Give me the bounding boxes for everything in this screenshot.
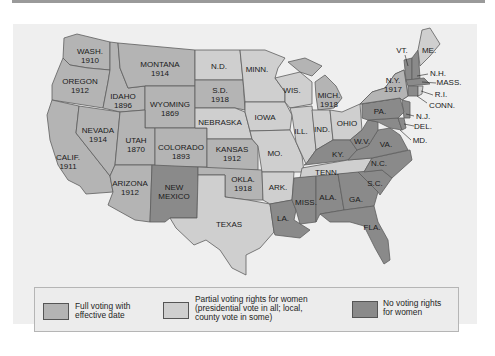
label-miss: MISS. xyxy=(295,198,317,207)
label-colorado-year: 1893 xyxy=(172,152,190,161)
label-sc: S.C. xyxy=(367,179,383,188)
label-mich: MICH. xyxy=(318,91,341,100)
label-wyoming: WYOMING xyxy=(150,100,190,109)
state-mass[interactable] xyxy=(406,78,430,86)
label-ala: ALA. xyxy=(319,193,336,202)
label-ga: GA. xyxy=(349,195,363,204)
label-arizona-year: 1912 xyxy=(121,188,139,197)
legend-label-partial: Partial voting rights for women (preside… xyxy=(195,295,308,322)
state-minn[interactable] xyxy=(240,50,285,102)
map-legend: Full voting with effective date Partial … xyxy=(34,287,459,332)
label-oregon: OREGON xyxy=(62,77,98,86)
label-ill: ILL. xyxy=(294,127,307,136)
legend-swatch-none xyxy=(352,301,378,318)
label-ky: KY. xyxy=(332,150,344,159)
state-conn[interactable] xyxy=(408,86,418,96)
label-wash: WASH. xyxy=(77,47,103,56)
label-nebraska: NEBRASKA xyxy=(198,118,242,127)
label-md: MD. xyxy=(413,136,428,145)
legend-swatch-partial xyxy=(163,302,189,319)
state-ri[interactable] xyxy=(418,86,423,96)
label-ind: IND. xyxy=(314,125,330,134)
label-vt: VT. xyxy=(396,46,408,55)
label-calif: CALIF. xyxy=(56,153,80,162)
label-ny-year: 1917 xyxy=(384,85,402,94)
label-calif-year: 1911 xyxy=(59,162,77,171)
label-okla-year: 1918 xyxy=(234,184,252,193)
label-la: LA. xyxy=(277,214,289,223)
label-kansas-year: 1912 xyxy=(223,154,241,163)
label-montana-year: 1914 xyxy=(151,69,169,78)
label-wash-year: 1910 xyxy=(81,56,99,65)
label-new-mexico-2: MEXICO xyxy=(158,192,190,201)
label-me: ME. xyxy=(422,46,436,55)
label-oregon-year: 1912 xyxy=(71,86,89,95)
label-new-mexico-1: NEW xyxy=(165,183,184,192)
label-va: VA. xyxy=(380,140,392,149)
label-utah: UTAH xyxy=(125,136,146,145)
label-tenn: TENN. xyxy=(315,168,339,177)
label-nd: N.D. xyxy=(211,62,227,71)
label-utah-year: 1870 xyxy=(127,145,145,154)
label-ri: R.I. xyxy=(435,90,447,99)
legend-label-full: Full voting with effective date xyxy=(75,302,130,320)
legend-swatch-full xyxy=(43,303,69,320)
label-nc: N.C. xyxy=(371,159,387,168)
label-mass: MASS. xyxy=(437,78,462,87)
label-mo: MO. xyxy=(267,149,282,158)
label-sd-year: 1918 xyxy=(211,95,229,104)
label-arizona: ARIZONA xyxy=(112,179,148,188)
label-fla: FLA. xyxy=(364,223,381,232)
label-idaho: IDAHO xyxy=(110,92,135,101)
label-conn: CONN. xyxy=(429,101,455,110)
label-nj: N.J. xyxy=(416,112,430,121)
label-iowa: IOWA xyxy=(254,113,276,122)
label-ohio: OHIO xyxy=(337,119,357,128)
label-texas: TEXAS xyxy=(216,220,242,229)
label-del: DEL. xyxy=(414,122,432,131)
label-pa: PA. xyxy=(374,107,386,116)
label-idaho-year: 1896 xyxy=(114,101,132,110)
label-wyoming-year: 1869 xyxy=(161,109,179,118)
label-kansas: KANSAS xyxy=(216,145,248,154)
state-fla[interactable] xyxy=(320,206,390,264)
label-nevada: NEVADA xyxy=(82,126,115,135)
label-sd: S.D. xyxy=(212,86,228,95)
label-colorado: COLORADO xyxy=(158,143,204,152)
label-nh: N.H. xyxy=(430,69,446,78)
label-wis: WIS. xyxy=(283,86,300,95)
label-mich-year: 1918 xyxy=(320,100,338,109)
label-okla: OKLA. xyxy=(231,175,255,184)
legend-label-none: No voting rights for women xyxy=(383,299,441,317)
label-nevada-year: 1914 xyxy=(89,135,107,144)
label-wv: W.V. xyxy=(354,137,370,146)
label-ark: ARK. xyxy=(269,183,288,192)
label-ny: N.Y. xyxy=(386,76,401,85)
label-montana: MONTANA xyxy=(140,60,180,69)
label-minn: MINN. xyxy=(246,65,269,74)
